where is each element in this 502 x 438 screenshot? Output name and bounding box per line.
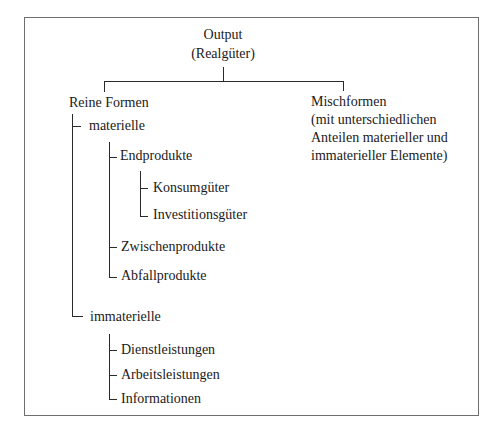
node-immaterielle: immaterielle — [90, 308, 161, 326]
node-mischformen: Mischformen — [311, 93, 386, 111]
node-reine-formen: Reine Formen — [69, 94, 149, 112]
root-bar — [104, 81, 344, 82]
node-endprodukte: Endprodukte — [120, 147, 192, 165]
endprodukte-dash — [109, 157, 117, 158]
diagram-frame — [24, 17, 479, 416]
node-dienstleistungen: Dienstleistungen — [121, 341, 215, 359]
zwischen-dash — [109, 247, 117, 248]
materielle-dash — [72, 126, 81, 127]
root-subtitle: (Realgüter) — [183, 45, 263, 63]
dienst-dash — [109, 350, 117, 351]
node-konsumgueter: Konsumgüter — [153, 179, 229, 197]
mischformen-desc-2: Anteilen materieller und — [311, 129, 448, 147]
node-informationen: Informationen — [121, 390, 201, 408]
node-investitionsgueter: Investitionsgüter — [153, 206, 247, 224]
reine-vertical — [72, 114, 73, 317]
node-materielle: materielle — [89, 117, 145, 135]
arbeit-dash — [109, 375, 117, 376]
reine-tick — [104, 81, 105, 92]
invest-dash — [140, 216, 148, 217]
info-dash — [109, 399, 117, 400]
root-stem — [223, 67, 224, 81]
endprodukte-vertical — [140, 171, 141, 217]
node-zwischenprodukte: Zwischenprodukte — [121, 238, 225, 256]
immaterielle-vertical — [109, 334, 110, 400]
node-arbeitsleistungen: Arbeitsleistungen — [121, 366, 220, 384]
node-abfallprodukte: Abfallprodukte — [121, 267, 207, 285]
root-title: Output — [183, 26, 263, 44]
konsum-dash — [140, 188, 148, 189]
abfall-dash — [109, 277, 117, 278]
misch-tick — [343, 81, 344, 91]
materielle-vertical — [109, 142, 110, 277]
mischformen-desc-1: (mit unterschiedlichen — [311, 111, 437, 129]
immaterielle-dash — [72, 316, 83, 317]
mischformen-desc-3: immaterieller Elemente) — [311, 147, 447, 165]
